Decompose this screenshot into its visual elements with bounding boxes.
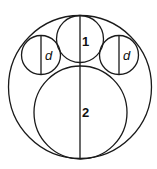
label-2: 2 bbox=[82, 105, 89, 120]
label-d-right: d bbox=[123, 48, 131, 63]
label-d-left: d bbox=[45, 48, 53, 63]
circles-diagram: 1 2 d d bbox=[0, 0, 157, 169]
label-1: 1 bbox=[82, 34, 89, 49]
